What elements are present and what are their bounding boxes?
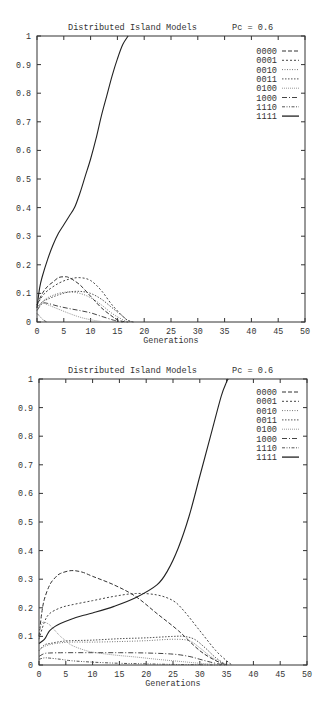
legend-label: 1111 [256,453,277,463]
y-tick-label: 0.9 [16,61,31,71]
y-tick-label: 0.1 [16,289,31,299]
y-tick-label: 0.4 [16,204,31,214]
y-tick-label: 1 [26,32,31,42]
x-tick-label: 10 [88,670,98,680]
y-tick-label: 0.9 [18,404,33,414]
series-0011 [37,291,133,322]
series-1110 [37,313,48,322]
series-0001 [39,593,232,665]
y-tick-label: 0.6 [16,146,31,156]
y-tick-label: 0 [26,318,31,328]
y-tick-label: 0.7 [16,118,31,128]
y-tick-label: 0 [28,661,33,671]
chart-top-svg: Distributed Island ModelsPc = 0.600.10.2… [0,0,327,360]
legend-label: 1111 [256,112,277,122]
y-tick-label: 0.1 [18,632,33,642]
x-tick-label: 50 [300,327,310,337]
series-0001 [37,278,133,322]
x-tick-label: 5 [63,670,68,680]
series-1111 [37,36,128,308]
x-tick-label: 15 [112,327,122,337]
series-group [37,36,133,322]
series-0000 [37,277,128,322]
legend: 00000001001000110100100011101111 [256,388,299,463]
series-group [39,379,232,665]
series-1000 [39,653,227,665]
chart-top: Distributed Island ModelsPc = 0.600.10.2… [0,0,327,360]
y-tick-label: 0.8 [18,432,33,442]
series-0010 [39,639,227,665]
x-tick-label: 5 [61,327,66,337]
chart-subtitle: Pc = 0.6 [232,366,273,376]
x-axis-label: Generations [145,679,200,689]
y-tick-label: 1 [28,375,33,385]
y-tick-label: 0.2 [18,604,33,614]
y-tick-label: 0.8 [16,89,31,99]
y-tick-label: 0.5 [18,518,33,528]
y-tick-label: 0.4 [18,547,33,557]
x-tick-label: 10 [86,327,96,337]
series-1111 [39,379,228,644]
y-tick-label: 0.6 [18,489,33,499]
x-tick-label: 35 [220,327,230,337]
x-tick-label: 45 [275,670,285,680]
legend: 00000001001000110100100011101111 [256,47,299,122]
y-tick-label: 0.3 [18,575,33,585]
y-tick-label: 0.7 [18,461,33,471]
chart-bottom: Distributed Island ModelsPc = 0.600.10.2… [0,350,327,718]
x-tick-label: 50 [302,670,312,680]
x-tick-label: 15 [114,670,124,680]
x-tick-label: 40 [246,327,256,337]
x-tick-label: 45 [273,327,283,337]
x-tick-label: 0 [36,670,41,680]
series-0100 [37,303,112,322]
chart-bottom-svg: Distributed Island ModelsPc = 0.600.10.2… [0,350,327,718]
x-tick-label: 0 [34,327,39,337]
chart-subtitle: Pc = 0.6 [232,23,273,33]
x-tick-label: 40 [248,670,258,680]
chart-title: Distributed Island Models [68,366,197,376]
chart-title: Distributed Island Models [68,23,197,33]
y-tick-label: 0.2 [16,261,31,271]
series-0000 [39,571,227,665]
series-1110 [39,658,221,665]
legend-item-1111: 1111 [256,112,299,122]
x-tick-label: 35 [222,670,232,680]
y-tick-label: 0.3 [16,232,31,242]
x-axis-label: Generations [143,336,198,346]
y-tick-label: 0.5 [16,175,31,185]
legend-item-1111: 1111 [256,453,299,463]
